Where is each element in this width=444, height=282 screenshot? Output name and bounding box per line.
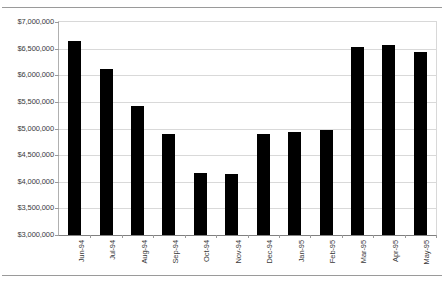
x-axis-tick-mark [373, 235, 374, 238]
x-axis-tick-mark [405, 235, 406, 238]
y-axis-tick-mark [55, 208, 59, 209]
gridline [59, 129, 436, 130]
y-axis-tick-label: $6,500,000 [0, 43, 54, 52]
x-axis-tick-mark [185, 235, 186, 238]
y-axis-tick-mark [55, 235, 59, 236]
x-axis-tick-label: May-95 [422, 240, 431, 264]
gridline [59, 75, 436, 76]
y-axis-tick-label: $5,500,000 [0, 96, 54, 105]
gridline [59, 182, 436, 183]
gridline [59, 102, 436, 103]
gridline [59, 49, 436, 50]
bar [257, 134, 270, 235]
gridline [59, 155, 436, 156]
bar [131, 106, 144, 235]
x-axis-tick-label: Jul-94 [108, 240, 117, 260]
y-axis-tick-label: $4,000,000 [0, 176, 54, 185]
chart-container: $3,000,000$3,500,000$4,000,000$4,500,000… [0, 0, 444, 282]
bar [100, 69, 113, 235]
bar [68, 41, 81, 235]
bar [162, 134, 175, 235]
y-axis-tick-label: $4,500,000 [0, 150, 54, 159]
x-axis-tick-label: Aug-94 [140, 240, 149, 264]
y-axis-tick-label: $7,000,000 [0, 17, 54, 26]
bar [320, 130, 333, 235]
x-axis-tick-label: Sep-94 [171, 240, 180, 264]
x-axis-tick-label: Mar-95 [359, 240, 368, 263]
x-axis-tick-label: Jun-94 [77, 240, 86, 262]
x-axis-tick-label: Jan-95 [297, 240, 306, 262]
x-axis-tick-mark [436, 235, 437, 238]
bar [194, 173, 207, 235]
y-axis-tick-mark [55, 155, 59, 156]
y-axis-tick-mark [55, 129, 59, 130]
gridline [59, 208, 436, 209]
x-axis-tick-label: Apr-95 [391, 240, 400, 262]
x-axis-tick-label: Nov-94 [234, 240, 243, 264]
x-axis-tick-mark [279, 235, 280, 238]
x-axis-tick-label: Feb-95 [328, 240, 337, 263]
bar [382, 45, 395, 235]
x-axis-tick-mark [216, 235, 217, 238]
x-axis-tick-label: Oct-94 [202, 240, 211, 262]
bar [225, 174, 238, 236]
y-axis-tick-label: $5,000,000 [0, 123, 54, 132]
y-axis-tick-label: $6,000,000 [0, 70, 54, 79]
x-axis-tick-mark [153, 235, 154, 238]
bar [414, 52, 427, 235]
x-axis-tick-mark [342, 235, 343, 238]
x-axis-tick-label: Dec-94 [265, 240, 274, 264]
x-axis-tick-mark [122, 235, 123, 238]
x-axis-tick-mark [90, 235, 91, 238]
y-axis-tick-mark [55, 102, 59, 103]
y-axis-tick-mark [55, 182, 59, 183]
y-axis-tick-label: $3,500,000 [0, 203, 54, 212]
y-axis-tick-mark [55, 49, 59, 50]
top-divider-rule [2, 7, 442, 8]
bar [288, 132, 301, 235]
plot-area [58, 21, 437, 236]
y-axis-tick-mark [55, 22, 59, 23]
bar [351, 47, 364, 235]
x-axis-tick-mark [248, 235, 249, 238]
x-axis-tick-mark [310, 235, 311, 238]
bottom-divider-rule [2, 275, 442, 276]
y-axis-tick-label: $3,000,000 [0, 230, 54, 239]
y-axis-tick-mark [55, 75, 59, 76]
